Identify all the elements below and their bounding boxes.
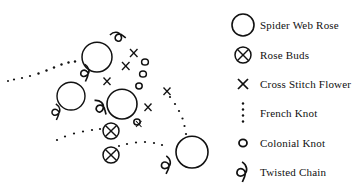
colonial-knot-2 [140, 71, 147, 77]
rose-buds-markers [103, 123, 119, 163]
legend-label-rose-buds: Rose Buds [260, 50, 309, 61]
cross-stitch-flower-5 [145, 104, 152, 112]
legend-label-french-knot: French Knot [260, 108, 318, 119]
colonial-knot-1 [142, 59, 149, 65]
legend-row-cross-stitch-flower: Cross Stitch Flower [226, 71, 351, 97]
legend: Spider Web Rose Rose Buds Cross Stitch F… [226, 6, 358, 182]
cross-stitch-flower-3 [104, 78, 111, 86]
rose-buds-icon [226, 42, 260, 68]
legend-row-rose-buds: Rose Buds [226, 42, 309, 68]
twisted-chain-icon [226, 159, 260, 185]
spider-web-rose-4 [176, 136, 208, 168]
spider-web-rose-icon [226, 12, 260, 38]
cross-stitch-flower-1 [130, 49, 138, 57]
spider-web-rose-2 [57, 82, 85, 110]
twisted-chain-3 [51, 104, 60, 121]
legend-label-spider-web-rose: Spider Web Rose [260, 20, 339, 31]
cross-stitch-flower-2 [122, 62, 130, 70]
french-knot-path-right-arc [169, 96, 187, 135]
colonial-knot-markers [134, 59, 149, 125]
twisted-chain-5 [160, 155, 171, 174]
colonial-knot-icon [226, 130, 260, 156]
cross-stitch-flower-4 [164, 88, 171, 96]
legend-row-twisted-chain: Twisted Chain [226, 159, 326, 185]
rose-bud-2 [103, 147, 119, 163]
cross-stitch-flower-icon [226, 71, 260, 97]
twisted-chain-1 [109, 30, 127, 43]
legend-label-colonial-knot: Colonial Knot [260, 138, 325, 149]
french-knot-dot-paths [7, 60, 187, 147]
embroidery-pattern-diagram: Spider Web Rose Rose Buds Cross Stitch F… [0, 0, 358, 186]
legend-label-twisted-chain: Twisted Chain [260, 167, 326, 178]
rose-bud-1 [103, 123, 119, 139]
spider-web-rose-3 [107, 89, 137, 119]
spider-web-rose-1 [82, 42, 112, 72]
colonial-knot-3 [136, 83, 142, 89]
french-knot-path-bottom-arc [118, 141, 163, 147]
french-knot-icon [226, 100, 260, 126]
french-knot-path-left-arc [7, 60, 76, 82]
legend-row-french-knot: French Knot [226, 100, 318, 126]
spider-web-rose-markers [57, 42, 208, 168]
twisted-chain-4 [92, 98, 109, 118]
legend-row-spider-web-rose: Spider Web Rose [226, 12, 339, 38]
legend-label-cross-stitch-flower: Cross Stitch Flower [260, 79, 351, 90]
legend-row-colonial-knot: Colonial Knot [226, 130, 325, 156]
french-knot-path-lower-arc [56, 128, 101, 141]
